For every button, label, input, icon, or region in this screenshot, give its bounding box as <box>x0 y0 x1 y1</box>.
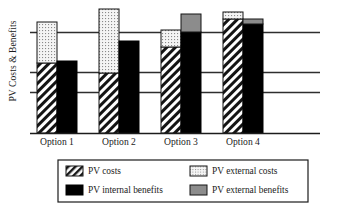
bar-pv-costs-option-3 <box>161 47 181 133</box>
hatch-swatch <box>66 166 83 176</box>
legend-label-pv-external-benefits: PV external benefits <box>212 186 288 195</box>
bar-pv-internal-benefits-option-1 <box>57 61 77 133</box>
bar-pv-internal-benefits-option-2 <box>119 41 139 133</box>
bar-pv-external-costs-option-3 <box>161 30 181 47</box>
bar-pv-external-costs-option-4 <box>223 12 243 19</box>
bar-group-option-3 <box>161 14 201 133</box>
bar-pv-external-costs-option-1 <box>37 22 57 63</box>
bar-group-option-2 <box>99 9 139 133</box>
legend-label-pv-costs: PV costs <box>88 167 121 176</box>
bar-pv-external-benefits-option-3 <box>181 14 201 32</box>
bar-pv-external-benefits-option-4 <box>243 19 263 24</box>
bar-pv-internal-benefits-option-3 <box>181 32 201 133</box>
bar-pv-costs-option-2 <box>99 73 119 133</box>
bar-group-option-4 <box>223 12 263 133</box>
bar-pv-costs-option-4 <box>223 19 243 133</box>
gray-swatch <box>190 185 207 195</box>
y-axis-label: PV Costs & Benefits <box>8 0 18 126</box>
legend-label-pv-external-costs: PV external costs <box>212 167 277 176</box>
chart-canvas <box>0 0 337 209</box>
dots-swatch <box>190 166 207 176</box>
bar-group-option-1 <box>37 22 77 133</box>
chart-figure: PV Costs & Benefits <box>0 0 337 209</box>
bar-pv-costs-option-1 <box>37 63 57 133</box>
x-tick-option-4: Option 4 <box>203 136 283 147</box>
bar-pv-external-costs-option-2 <box>99 9 119 73</box>
bar-pv-internal-benefits-option-4 <box>243 24 263 133</box>
black-swatch <box>66 185 83 195</box>
legend-label-pv-internal-benefits: PV internal benefits <box>88 186 163 195</box>
